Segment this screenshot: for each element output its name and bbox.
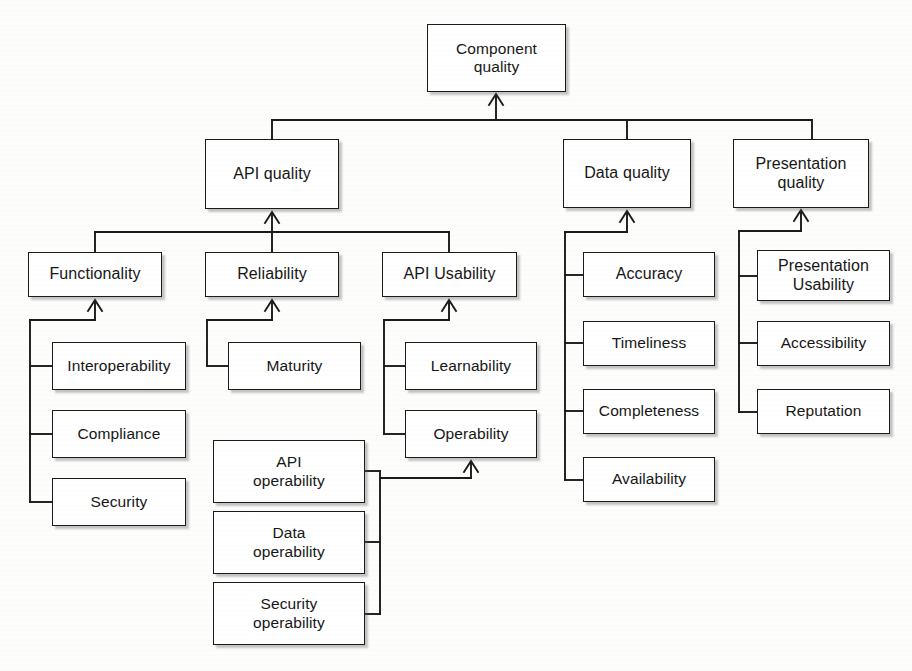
node-label: Timeliness	[609, 334, 690, 352]
node-data-quality[interactable]: Data quality	[563, 139, 691, 208]
node-api-usability[interactable]: API Usability	[382, 252, 517, 297]
node-availability[interactable]: Availability	[583, 457, 715, 502]
node-label: Learnability	[428, 357, 514, 375]
node-label: Security	[88, 493, 151, 511]
node-label: Data quality	[581, 164, 673, 183]
node-label: Component quality	[453, 40, 540, 77]
node-label: API operability	[250, 453, 328, 490]
node-label: Reputation	[783, 402, 865, 420]
quality-model-diagram: Component quality API quality Data quali…	[0, 0, 912, 671]
node-label: Presentation Usability	[775, 257, 872, 295]
node-operability[interactable]: Operability	[405, 410, 537, 458]
node-compliance[interactable]: Compliance	[52, 410, 186, 458]
node-learnability[interactable]: Learnability	[405, 342, 537, 390]
node-maturity[interactable]: Maturity	[228, 342, 361, 390]
node-presentation-usability[interactable]: Presentation Usability	[757, 250, 890, 301]
node-label: Functionality	[46, 265, 143, 284]
edge-group-presentation-quality	[739, 210, 808, 412]
node-label: Availability	[609, 470, 689, 488]
node-label: Accessibility	[778, 334, 870, 352]
edge-group-operability	[365, 461, 478, 614]
node-label: Maturity	[264, 357, 326, 375]
node-accessibility[interactable]: Accessibility	[757, 321, 890, 366]
node-label: Data operability	[250, 524, 328, 561]
node-timeliness[interactable]: Timeliness	[583, 321, 715, 366]
node-label: Interoperability	[64, 357, 173, 375]
node-reliability[interactable]: Reliability	[205, 252, 339, 297]
node-label: Operability	[430, 425, 511, 443]
node-functionality[interactable]: Functionality	[28, 252, 162, 297]
node-component-quality[interactable]: Component quality	[427, 24, 566, 92]
node-api-quality[interactable]: API quality	[205, 139, 339, 209]
node-label: API Usability	[401, 265, 499, 284]
node-label: Presentation quality	[752, 155, 849, 193]
node-data-operability[interactable]: Data operability	[213, 511, 365, 574]
node-label: Completeness	[596, 402, 702, 420]
node-completeness[interactable]: Completeness	[583, 389, 715, 434]
node-label: Compliance	[75, 425, 164, 443]
node-label: Security operability	[250, 595, 328, 632]
node-interoperability[interactable]: Interoperability	[52, 342, 186, 390]
node-label: Accuracy	[613, 265, 686, 284]
edge-group-api-quality	[95, 212, 449, 252]
node-accuracy[interactable]: Accuracy	[583, 252, 715, 297]
node-security[interactable]: Security	[52, 478, 186, 526]
node-api-operability[interactable]: API operability	[213, 440, 365, 503]
node-reputation[interactable]: Reputation	[757, 389, 890, 434]
node-label: API quality	[230, 165, 314, 184]
node-security-operability[interactable]: Security operability	[213, 582, 365, 645]
node-presentation-quality[interactable]: Presentation quality	[733, 139, 869, 208]
edge-group-functionality	[30, 300, 102, 502]
node-label: Reliability	[234, 265, 310, 284]
edge-group-root	[272, 94, 812, 139]
